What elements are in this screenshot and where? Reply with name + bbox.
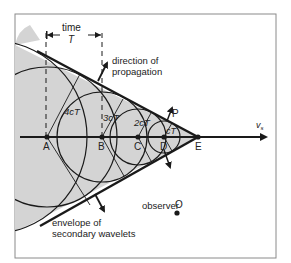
observer-label: observer xyxy=(142,200,179,211)
envelope-label-line2: secondary wavelets xyxy=(52,228,136,239)
radius-label-cT: cT xyxy=(166,126,178,136)
envelope-label-line1: envelope of xyxy=(52,217,101,228)
radius-label-4cT: 4cT xyxy=(64,106,81,117)
direction-label-line1: direction of xyxy=(112,55,159,66)
point-label-B: B xyxy=(98,141,105,152)
mach-cone-diagram: time T direction of propagation 4cT 3cT … xyxy=(0,0,291,263)
point-label-E: E xyxy=(195,141,202,152)
point-label-D: D xyxy=(160,141,167,152)
point-label-A: A xyxy=(43,141,50,152)
direction-label-line2: propagation xyxy=(112,66,162,77)
radius-label-2cT: 2cT xyxy=(133,117,151,128)
radius-label-3cT: 3cT xyxy=(103,112,120,123)
observer-dot xyxy=(174,210,179,215)
time-symbol: T xyxy=(68,34,75,45)
point-label-C: C xyxy=(134,141,141,152)
observer-symbol: O xyxy=(175,199,183,210)
time-label: time xyxy=(62,22,81,33)
p-label: P xyxy=(172,108,179,119)
